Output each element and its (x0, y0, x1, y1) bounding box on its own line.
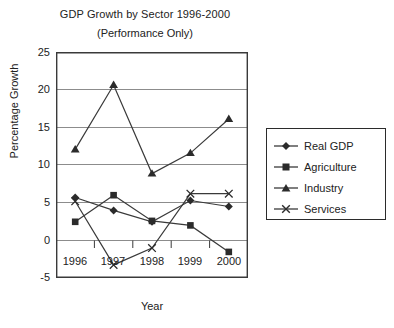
plot-svg (56, 52, 248, 278)
legend-label: Services (304, 203, 346, 215)
marker-square (187, 222, 194, 229)
gridlines (56, 53, 248, 241)
marker-triangle (71, 145, 80, 152)
series-line-industry (75, 85, 229, 174)
x-axis-tick-labels: 1996 1997 1998 1999 2000 (56, 256, 248, 276)
marker-cross (148, 244, 156, 252)
square-marker-icon (273, 160, 299, 174)
triangle-marker-icon (273, 181, 299, 195)
marker-diamond (225, 203, 233, 211)
chart-title: GDP Growth by Sector 1996-2000 (0, 8, 290, 20)
y-tick-5: 5 (4, 197, 50, 208)
marker-diamond (110, 206, 118, 214)
legend-item-services[interactable]: Services (273, 198, 381, 219)
x-tick-1997: 1997 (91, 256, 135, 267)
marker-square (72, 219, 79, 226)
diamond-marker-icon (273, 139, 299, 153)
y-tick-25: 25 (4, 47, 50, 58)
legend-label: Industry (304, 182, 343, 194)
chart-container: GDP Growth by Sector 1996-2000 (Performa… (0, 0, 394, 328)
x-tick-1999: 1999 (168, 256, 212, 267)
marker-triangle (224, 115, 233, 122)
y-tick-minus5: -5 (4, 272, 50, 283)
legend-label: Agriculture (304, 161, 357, 173)
y-tick-10: 10 (4, 159, 50, 170)
y-axis-tick-labels: 25 20 15 10 5 0 -5 (2, 52, 50, 278)
x-tick-2000: 2000 (207, 256, 251, 267)
chart-subtitle: (Performance Only) (0, 27, 290, 39)
marker-square (149, 218, 156, 225)
legend-item-agriculture[interactable]: Agriculture (273, 156, 381, 177)
legend-item-industry[interactable]: Industry (273, 177, 381, 198)
chart-legend: Real GDP Agriculture Industry (266, 128, 386, 220)
marker-diamond (71, 194, 79, 202)
y-tick-15: 15 (4, 122, 50, 133)
x-axis-ticks (94, 241, 209, 249)
y-tick-0: 0 (4, 235, 50, 246)
legend-label: Real GDP (304, 140, 354, 152)
markers-industry (71, 81, 233, 177)
marker-triangle (109, 81, 118, 88)
y-tick-20: 20 (4, 84, 50, 95)
x-axis-title: Year (56, 300, 248, 312)
marker-square (110, 192, 117, 199)
plot-area (56, 52, 248, 278)
legend-item-real-gdp[interactable]: Real GDP (273, 135, 381, 156)
cross-marker-icon (273, 202, 299, 216)
marker-triangle (148, 169, 157, 176)
markers-agriculture (72, 192, 232, 255)
